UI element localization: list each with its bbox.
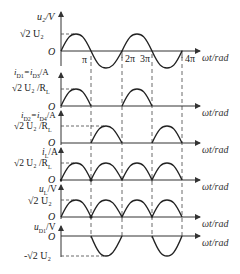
iD1-sub: D1 [17, 73, 24, 79]
iL-peak-sub: L [48, 164, 52, 170]
origin-label-5: O [48, 212, 55, 222]
x-axis-label-4: ωt/rad [202, 182, 229, 192]
uD1-neg-peak-label: -√2 U₂ [24, 251, 51, 261]
iL-unit: /A [48, 147, 58, 157]
x-axis-label-6: ωt/rad [202, 238, 229, 248]
u2-axis-text: u₂/V [37, 11, 54, 22]
iD2-peak-sub: L [48, 127, 52, 133]
iD1-unit: /A [40, 67, 49, 77]
iD1-peak-text: √2 U₂ /R [12, 83, 46, 93]
x-axis-label-5: ωt/rad [202, 219, 229, 229]
u2-peak-label: √2 U₂ [20, 29, 44, 39]
iD1-sub2: D3 [32, 73, 39, 79]
rectifier-waveform-diagram: u₂/V √2 U₂ O π 2π 3π 4π ωt/rad iD1=iD3/A… [0, 0, 240, 274]
panel-iL [60, 148, 200, 182]
panel-uD1 [61, 226, 200, 257]
origin-label-1: O [48, 47, 55, 57]
iD1-axis-label: iD1=iD3/A [14, 68, 49, 79]
iD1-peak-label: √2 U₂ /RL [12, 84, 50, 95]
iD2-peak-label: √2 U₂ /RL [14, 122, 52, 133]
tick-pi: π [82, 55, 87, 65]
x-axis-label-2: ωt/rad [202, 108, 229, 118]
iD2-unit: /A [47, 110, 56, 120]
u2-axis-label: u₂/V [37, 12, 54, 22]
dashed-guides [91, 50, 182, 238]
x-axis-label-1: ωt/rad [202, 53, 229, 63]
uL-peak-label: √2 U₂ [28, 196, 52, 206]
iD2-peak-text: √2 U₂ /R [14, 121, 48, 131]
origin-label-6: O [48, 232, 55, 242]
panel-iD2 [61, 111, 200, 145]
panel-uL [61, 185, 200, 219]
iL-peak-label: √2 U₂ /RL [14, 159, 52, 170]
uL-unit: /V [47, 184, 57, 194]
x-axis-label-3: ωt/rad [202, 145, 229, 155]
tick-2pi: 2π [125, 54, 135, 64]
iD1-peak-sub: L [46, 89, 50, 95]
uD1-sub: D1 [39, 228, 46, 234]
tick-3pi: 3π [140, 54, 150, 64]
panel-iD1 [61, 73, 200, 108]
tick-4pi: 4π [185, 54, 195, 64]
iL-peak-text: √2 U₂ /R [14, 158, 48, 168]
